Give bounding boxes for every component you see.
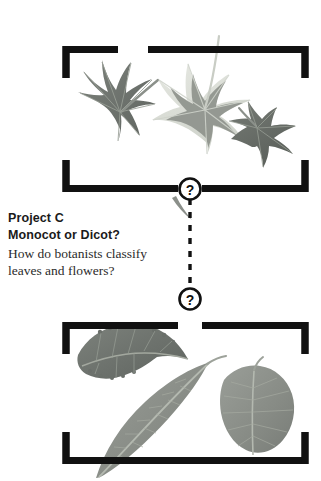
top-question-badge[interactable]: ? [180,179,201,200]
project-question-title: Monocot or Dicot? [8,227,183,244]
bottom-badge-symbol: ? [186,292,195,308]
project-label: Project C [8,210,183,226]
bottom-group-bracket [66,322,305,464]
top-badge-symbol: ? [186,182,195,198]
top-group-bracket [66,46,305,192]
bottom-question-badge[interactable]: ? [180,289,201,310]
project-card: ? ? Project C Monocot or Dicot? How do b… [0,0,321,481]
project-description: How do botanists classify leaves and flo… [8,246,183,279]
project-text-block: Project C Monocot or Dicot? How do botan… [8,210,183,279]
description-line-1: How do botanists classify [8,246,183,263]
description-line-2: leaves and flowers? [8,263,183,280]
